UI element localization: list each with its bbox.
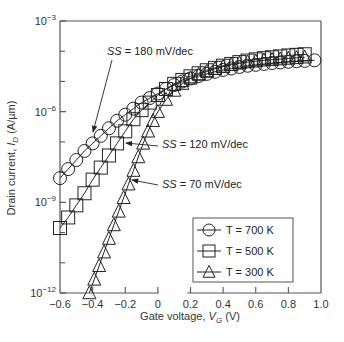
x-tick-label: 0.8	[281, 298, 296, 310]
ss-annotation: SS = 120 mV/dec	[162, 138, 248, 150]
drain-current-chart: 10−310−610−910−12 −0.6−0.4−0.200.20.40.6…	[0, 0, 344, 342]
x-tick-label: 0.4	[215, 298, 230, 310]
legend-label: T = 300 K	[226, 266, 274, 278]
x-tick-label: 0.2	[183, 298, 198, 310]
x-tick-label: −0.2	[114, 298, 136, 310]
legend-label: T = 500 K	[226, 245, 274, 257]
legend-label: T = 700 K	[226, 224, 274, 236]
y-axis: 10−310−610−910−12	[30, 13, 66, 299]
x-tick-label: −0.4	[82, 298, 104, 310]
y-tick-label: 10−3	[35, 13, 57, 27]
legend: T = 700 KT = 500 KT = 300 K	[193, 218, 293, 282]
y-axis-title: Drain current, ID (A/µm)	[5, 101, 20, 216]
y-tick-label: 10−9	[35, 194, 57, 208]
annotation-arrow	[93, 60, 112, 132]
y-tick-label: 10−12	[30, 285, 56, 299]
x-axis-title: Gate voltage, VG (V)	[140, 310, 240, 325]
x-tick-label: 1.0	[313, 298, 328, 310]
y-tick-label: 10−6	[35, 104, 57, 118]
x-tick-label: 0.6	[248, 298, 263, 310]
x-tick-label: 0	[155, 298, 161, 310]
annotation-arrow	[132, 180, 158, 185]
ss-annotation: SS = 70 mV/dec	[162, 178, 242, 190]
ss-annotation: SS = 180 mV/dec	[107, 45, 193, 57]
x-tick-label: −0.6	[49, 298, 71, 310]
